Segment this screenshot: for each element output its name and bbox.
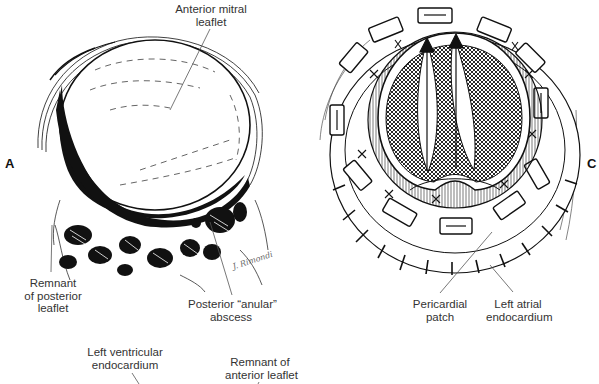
- panel-letter-c: C: [587, 156, 596, 171]
- label-line: abscess: [188, 311, 274, 324]
- label-left-ventricular-endocardium: Left ventricular endocardium: [85, 346, 165, 371]
- label-remnant-posterior-leaflet: Remnant of posterior leaflet: [22, 277, 84, 315]
- label-line: patch: [410, 311, 470, 324]
- label-left-atrial-endocardium: Left atrial endocardium: [486, 298, 550, 323]
- label-pericardial-patch: Pericardial patch: [410, 298, 470, 323]
- label-line: Left ventricular: [85, 346, 165, 359]
- label-line: of posterior: [22, 290, 84, 303]
- label-line: Pericardial: [410, 298, 470, 311]
- label-line: leaflet: [22, 302, 84, 315]
- label-line: leaflet: [173, 16, 249, 29]
- label-posterior-anular-abscess: Posterior “anular” abscess: [188, 298, 274, 323]
- label-line: endocardium: [486, 311, 550, 324]
- label-anterior-mitral-leaflet: Anterior mitral leaflet: [173, 3, 249, 28]
- label-line: Left atrial: [486, 298, 550, 311]
- panel-a-drawing: [38, 37, 268, 292]
- label-line: Remnant of: [225, 356, 295, 369]
- mitral-valve-illustration: A C Anterior mitral leaflet Remnant of p…: [0, 0, 599, 384]
- label-line: Posterior “anular”: [188, 298, 274, 311]
- illustration-drawing: [0, 0, 599, 384]
- panel-c-drawing: [320, 8, 580, 275]
- label-line: anterior leaflet: [225, 369, 295, 382]
- label-line: endocardium: [85, 359, 165, 372]
- label-line: Remnant: [22, 277, 84, 290]
- panel-letter-a: A: [5, 156, 14, 171]
- label-line: Anterior mitral: [173, 3, 249, 16]
- label-remnant-anterior-leaflet: Remnant of anterior leaflet: [225, 356, 295, 381]
